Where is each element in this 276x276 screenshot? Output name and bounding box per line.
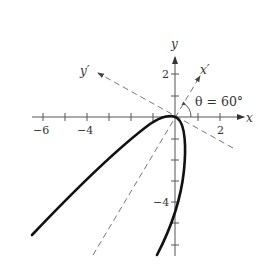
y-axis-label: y xyxy=(170,37,178,51)
y-axis xyxy=(171,57,179,256)
angle-annotation: θ = 60° xyxy=(195,94,243,109)
x-tick-label-neg6: −6 xyxy=(33,124,49,137)
y-tick-label-2: 2 xyxy=(162,68,169,81)
y-tick-label-neg4: −4 xyxy=(153,196,169,209)
x-tick-label-neg4: −4 xyxy=(77,124,93,137)
rotated-parabola-diagram: x y x′ y′ −6 −4 2 2 −4 θ = 60° xyxy=(0,0,276,276)
x-prime-label: x′ xyxy=(200,63,210,77)
x-axis xyxy=(32,113,244,121)
x-tick-label-2: 2 xyxy=(217,124,224,137)
angle-arc xyxy=(182,102,192,118)
parabola-curve xyxy=(32,116,185,255)
y-prime-axis xyxy=(98,73,233,148)
y-prime-label: y′ xyxy=(79,64,90,78)
x-axis-label: x xyxy=(246,111,253,125)
